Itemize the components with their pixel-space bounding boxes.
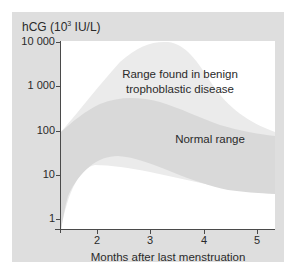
y-tick-label-1: 1 <box>49 212 55 224</box>
x-tick-label-3: 3 <box>140 234 160 246</box>
y-tick-label-100: 100 <box>37 124 55 136</box>
benign-annotation-line1: Range found in benign <box>110 67 250 82</box>
x-tick-label-4: 4 <box>194 234 214 246</box>
x-tick-label-2: 2 <box>87 234 107 246</box>
y-tick-label-10: 10 <box>43 168 55 180</box>
normal-range-annotation: Normal range <box>160 132 260 147</box>
x-tick-label-5: 5 <box>247 234 267 246</box>
y-tick-label-1000: 1 000 <box>27 79 55 91</box>
x-axis-label: Months after last menstruation <box>61 251 275 263</box>
benign-annotation-line2: trophoblastic disease <box>110 82 250 97</box>
y-tick-label-10000: 10 000 <box>21 35 55 47</box>
benign-range-annotation: Range found in benign trophoblastic dise… <box>110 67 250 97</box>
y-axis-label: hCG (103 IU/L) <box>22 20 101 34</box>
